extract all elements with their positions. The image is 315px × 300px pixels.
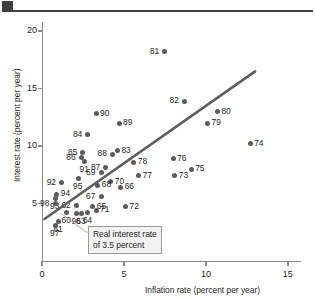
data-point-66 [118, 185, 123, 190]
x-axis-line [42, 261, 301, 262]
data-point-69 [99, 170, 104, 175]
data-point-label-89: 89 [123, 117, 132, 127]
x-tick-15 [287, 261, 288, 266]
data-point-68 [95, 183, 100, 188]
data-point-label-77: 77 [143, 170, 152, 180]
data-point-62 [74, 203, 79, 208]
data-point-label-90: 90 [100, 108, 109, 118]
data-point-77 [136, 173, 141, 178]
data-point-81 [162, 49, 167, 54]
data-point-label-95: 95 [73, 181, 82, 191]
x-tick-label-0: 0 [32, 269, 52, 279]
y-axis-title: Interest rate (percent per year) [12, 68, 22, 182]
data-point-92 [59, 180, 64, 185]
data-point-label-73: 73 [179, 170, 188, 180]
data-point-label-84: 84 [73, 129, 82, 139]
data-point-89 [117, 121, 122, 126]
data-point-74 [248, 141, 253, 146]
data-point-67 [99, 194, 104, 199]
data-point-label-75: 75 [195, 163, 204, 173]
data-point-79 [205, 121, 210, 126]
data-point-label-74: 74 [254, 138, 263, 148]
y-tick-label-20: 20 [16, 25, 37, 35]
data-point-label-71: 71 [100, 204, 109, 214]
x-tick-5 [123, 261, 124, 266]
data-point-label-83: 83 [121, 145, 130, 155]
data-point-73 [172, 173, 177, 178]
data-point-90 [94, 111, 99, 116]
data-point-label-62: 62 [61, 200, 70, 210]
data-point-label-78: 78 [138, 156, 147, 166]
data-point-label-86: 86 [66, 152, 75, 162]
real-interest-rate-callout: Real interest rate of 3.5 percent [88, 226, 162, 254]
y-axis-line [42, 22, 43, 261]
data-point-84 [85, 132, 90, 137]
data-point-label-67: 67 [86, 191, 95, 201]
data-point-78 [131, 160, 136, 165]
data-point-label-81: 81 [150, 46, 159, 56]
x-axis-title: Inflation rate (percent per year) [145, 285, 260, 295]
callout-line-1: Real interest rate [93, 229, 157, 240]
data-point-72 [123, 204, 128, 209]
y-tick-15 [38, 88, 43, 89]
header-rule [2, 10, 313, 12]
data-point-label-80: 80 [221, 106, 230, 116]
data-point-71 [94, 208, 99, 213]
x-tick-10 [205, 261, 206, 266]
data-point-label-66: 66 [125, 181, 134, 191]
data-point-label-98: 98 [40, 198, 49, 208]
data-point-87 [103, 165, 108, 170]
data-point-label-82: 82 [170, 95, 179, 105]
data-point-75 [189, 167, 194, 172]
data-point-83 [115, 148, 120, 153]
data-point-label-72: 72 [130, 201, 139, 211]
data-point-88 [110, 152, 115, 157]
data-point-label-69: 69 [86, 167, 95, 177]
data-point-label-79: 79 [212, 117, 221, 127]
y-tick-20 [38, 30, 43, 31]
data-point-label-64: 64 [83, 215, 92, 225]
y-tick-10 [38, 145, 43, 146]
data-point-label-92: 92 [47, 177, 56, 187]
x-tick-label-5: 5 [114, 269, 134, 279]
x-tick-label-15: 15 [278, 269, 298, 279]
header-accent-square [2, 1, 13, 10]
data-point-label-76: 76 [177, 153, 186, 163]
data-point-82 [182, 99, 187, 104]
x-tick-0 [41, 261, 42, 266]
data-point-76 [171, 156, 176, 161]
data-point-label-68: 68 [102, 179, 111, 189]
figure-header-bar [0, 0, 315, 14]
data-point-80 [215, 109, 220, 114]
callout-line-2: of 3.5 percent [93, 240, 157, 251]
interest-inflation-scatter-figure: 5101520051015Inflation rate (percent per… [0, 0, 315, 300]
data-point-label-97: 97 [50, 228, 59, 238]
data-point-98 [53, 201, 58, 206]
x-tick-label-10: 10 [196, 269, 216, 279]
y-tick-label-5: 5 [16, 198, 37, 208]
data-point-label-94: 94 [61, 188, 70, 198]
data-point-label-88: 88 [97, 148, 106, 158]
